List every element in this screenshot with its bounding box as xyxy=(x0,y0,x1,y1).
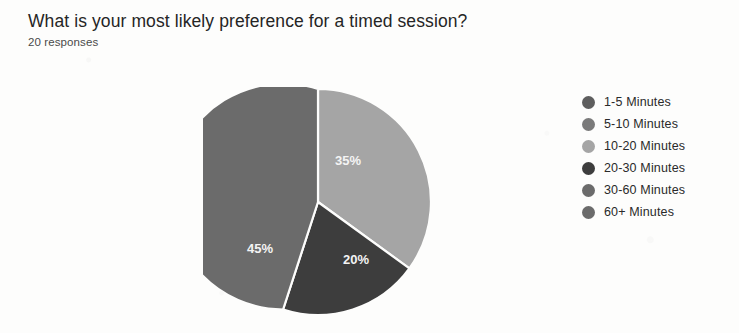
pie-chart: 35% 20% 45% xyxy=(0,58,560,333)
pie-slice-label-30-60-minutes: 45% xyxy=(247,241,273,256)
pie-svg: 35% 20% 45% xyxy=(203,87,433,317)
legend-item-5-10-minutes[interactable]: 5-10 Minutes xyxy=(582,113,732,135)
legend-swatch-20-30-minutes xyxy=(582,162,595,175)
legend-swatch-30-60-minutes xyxy=(582,184,595,197)
pie-slice-label-20-30-minutes: 20% xyxy=(343,252,369,267)
legend-item-10-20-minutes[interactable]: 10-20 Minutes xyxy=(582,135,732,157)
legend-swatch-60-plus-minutes xyxy=(582,206,595,219)
chart-legend: 1-5 Minutes 5-10 Minutes 10-20 Minutes 2… xyxy=(582,91,732,223)
legend-label-20-30-minutes: 20-30 Minutes xyxy=(604,161,685,175)
legend-swatch-5-10-minutes xyxy=(582,118,595,131)
response-count: 20 responses xyxy=(28,36,467,48)
legend-label-10-20-minutes: 10-20 Minutes xyxy=(604,139,685,153)
legend-label-60-plus-minutes: 60+ Minutes xyxy=(604,205,674,219)
pie-graphic: 35% 20% 45% xyxy=(203,87,433,317)
legend-label-1-5-minutes: 1-5 Minutes xyxy=(604,95,671,109)
legend-label-5-10-minutes: 5-10 Minutes xyxy=(604,117,678,131)
legend-item-30-60-minutes[interactable]: 30-60 Minutes xyxy=(582,179,732,201)
legend-item-60-plus-minutes[interactable]: 60+ Minutes xyxy=(582,201,732,223)
legend-swatch-1-5-minutes xyxy=(582,96,595,109)
chart-header: What is your most likely preference for … xyxy=(28,10,467,48)
page-title: What is your most likely preference for … xyxy=(28,10,467,32)
legend-item-1-5-minutes[interactable]: 1-5 Minutes xyxy=(582,91,732,113)
pie-slice-label-10-20-minutes: 35% xyxy=(335,153,361,168)
legend-item-20-30-minutes[interactable]: 20-30 Minutes xyxy=(582,157,732,179)
legend-label-30-60-minutes: 30-60 Minutes xyxy=(604,183,685,197)
legend-swatch-10-20-minutes xyxy=(582,140,595,153)
